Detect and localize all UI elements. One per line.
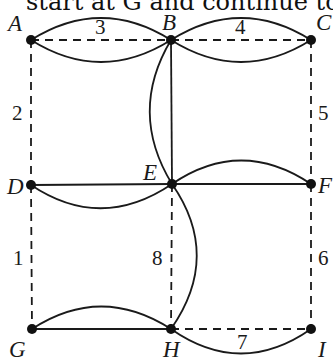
- vertex-label-G: G: [9, 337, 26, 359]
- edge-E-H-dashed: [171, 184, 172, 329]
- vertex-H: [166, 324, 176, 334]
- graph-figure: start at G and continue to D, A,: [0, 0, 333, 359]
- edge-B-C-arc-down: [171, 40, 311, 62]
- vertex-label-I: I: [317, 337, 327, 359]
- vertex-C: [306, 35, 316, 45]
- edge-E-F-arc-up: [172, 161, 311, 185]
- vertex-E: [167, 179, 177, 189]
- vertex-label-F: F: [317, 173, 333, 198]
- graph-canvas: A B C D E F G H I 3 4 2 5 1 8 6 7: [0, 0, 333, 359]
- weight-label-A-B: 3: [95, 15, 106, 39]
- edge-B-E-straight: [171, 40, 172, 184]
- weight-label-D-G: 1: [13, 246, 24, 270]
- edge-E-H-arc-right: [171, 184, 197, 329]
- vertex-D: [26, 180, 36, 190]
- weight-label-A-D: 2: [12, 101, 23, 125]
- weight-label-E-H: 8: [152, 246, 163, 270]
- vertex-label-D: D: [6, 174, 24, 199]
- edge-A-B-arc-down: [31, 40, 171, 62]
- edge-D-G-dashed: [31, 185, 32, 329]
- vertex-label-E: E: [142, 160, 157, 185]
- weight-label-B-C: 4: [235, 15, 246, 39]
- vertex-F: [306, 179, 316, 189]
- edge-G-H-arc-up: [32, 307, 171, 330]
- vertex-label-H: H: [162, 337, 181, 359]
- vertex-label-C: C: [316, 10, 332, 35]
- weight-label-F-I: 6: [318, 246, 329, 270]
- vertex-label-B: B: [162, 10, 176, 35]
- edge-D-E-arc-down: [31, 184, 172, 208]
- vertex-I: [306, 324, 316, 334]
- weight-label-C-F: 5: [318, 101, 329, 125]
- vertex-B: [166, 35, 176, 45]
- vertex-A: [26, 35, 36, 45]
- weight-label-H-I: 7: [237, 330, 248, 354]
- vertex-G: [27, 324, 37, 334]
- vertex-label-A: A: [6, 11, 23, 36]
